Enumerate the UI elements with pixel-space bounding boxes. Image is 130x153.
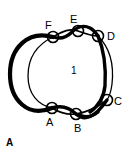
crossing-label-e: E xyxy=(70,14,77,25)
outer-loop-thick-strand xyxy=(10,35,53,110)
knot-diagram-svg xyxy=(0,0,130,153)
knot-diagram-figure: A B C D E F 1 A xyxy=(0,0,130,153)
right-thick-arc-strand xyxy=(90,36,105,112)
crossing-label-b: B xyxy=(74,123,81,134)
inner-loop-thin-strand xyxy=(28,37,53,108)
figure-label: A xyxy=(6,138,13,148)
crossing-label-f: F xyxy=(45,20,52,31)
crossing-label-a: A xyxy=(46,117,53,128)
crossing-label-d: D xyxy=(107,31,115,42)
knot-strands xyxy=(10,26,112,117)
region-label-1: 1 xyxy=(71,66,77,76)
crossing-label-c: C xyxy=(114,96,122,107)
